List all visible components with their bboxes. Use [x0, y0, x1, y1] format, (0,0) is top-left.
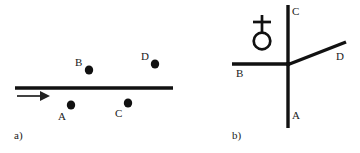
point-a-label: A [58, 111, 66, 122]
branch-b-label: B [236, 68, 243, 79]
panel-a-group [15, 59, 173, 109]
point-d-dot [151, 59, 159, 68]
point-c-dot [124, 98, 132, 107]
symbol-circle [254, 33, 271, 50]
figure-drawing [0, 0, 360, 153]
direction-arrow [17, 91, 50, 101]
panel-b-group [232, 5, 346, 128]
branch-c-label: C [292, 6, 299, 17]
point-c-label: C [115, 108, 122, 119]
point-b-dot [85, 65, 93, 74]
point-a-dot [67, 100, 75, 109]
figure-container: B D A C a) C A B D b) [0, 0, 360, 153]
venus-inverted-symbol [253, 15, 271, 49]
arrow-head [40, 91, 50, 101]
branch-d-label: D [336, 51, 344, 62]
panel-b-caption: b) [232, 130, 241, 141]
point-d-label: D [141, 51, 149, 62]
point-b-label: B [75, 57, 82, 68]
panel-a-caption: a) [14, 130, 23, 141]
branch-a-label: A [292, 110, 300, 121]
